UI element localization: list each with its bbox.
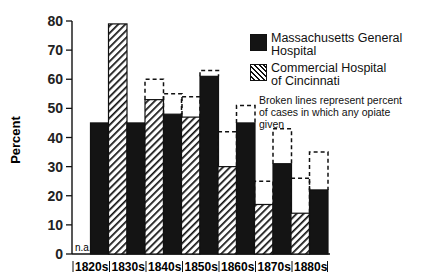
bar: [255, 204, 274, 254]
solid-swatch-icon: [250, 34, 267, 51]
any-opiate-dashed-outline: [255, 181, 274, 204]
bar: [164, 114, 183, 254]
x-tick-label: 1820s: [75, 260, 109, 274]
bar: [91, 123, 110, 254]
any-opiate-dashed-outline: [200, 71, 219, 77]
x-tick-label: 1860s: [221, 260, 255, 274]
bar: [273, 164, 292, 254]
x-tick-label: 1880s: [294, 260, 328, 274]
y-tick-label: 0: [55, 246, 63, 262]
y-tick-label: 70: [47, 42, 63, 58]
bar: [127, 123, 146, 254]
y-tick-label: 30: [47, 159, 63, 175]
x-tick-label: 1840s: [148, 260, 182, 274]
any-opiate-dashed-outline: [145, 79, 164, 99]
bar: [200, 76, 219, 254]
legend-label: Hospital: [271, 45, 402, 58]
note-line: of cases in which any opiate: [259, 106, 429, 118]
broken-lines-note: Broken lines represent percent of cases …: [259, 94, 429, 130]
y-tick-label: 50: [47, 100, 63, 116]
bar: [291, 213, 310, 254]
legend-label: of Cincinnati: [271, 75, 386, 88]
hatched-swatch-icon: [250, 64, 267, 81]
bar: [237, 123, 256, 254]
y-tick-label: 40: [47, 130, 63, 146]
y-tick-label: 20: [47, 188, 63, 204]
x-tick-label: 1870s: [258, 260, 292, 274]
bar: [218, 167, 237, 254]
note-line: Broken lines represent percent: [259, 94, 429, 106]
any-opiate-dashed-outline: [291, 178, 310, 213]
legend: Massachusetts GeneralHospital Commercial…: [250, 32, 402, 92]
bar: [109, 24, 128, 254]
na-label: n.a.: [75, 242, 92, 253]
y-axis-label: Percent: [8, 115, 23, 163]
x-tick-label: 1850s: [185, 260, 219, 274]
note-line: given: [259, 118, 429, 130]
bar: [145, 100, 164, 254]
bar: [310, 190, 329, 254]
y-tick-label: 10: [47, 217, 63, 233]
y-tick-label: 80: [47, 13, 63, 29]
bar: [182, 117, 201, 254]
any-opiate-dashed-outline: [273, 129, 292, 164]
any-opiate-dashed-outline: [182, 97, 201, 117]
legend-item-chc: Commercial Hospitalof Cincinnati: [250, 62, 402, 88]
y-tick-label: 60: [47, 71, 63, 87]
any-opiate-dashed-outline: [310, 152, 329, 190]
x-tick-label: 1830s: [112, 260, 146, 274]
any-opiate-dashed-outline: [164, 94, 183, 114]
any-opiate-dashed-outline: [218, 132, 237, 167]
legend-item-mgh: Massachusetts GeneralHospital: [250, 32, 402, 58]
any-opiate-dashed-outline: [237, 105, 256, 122]
